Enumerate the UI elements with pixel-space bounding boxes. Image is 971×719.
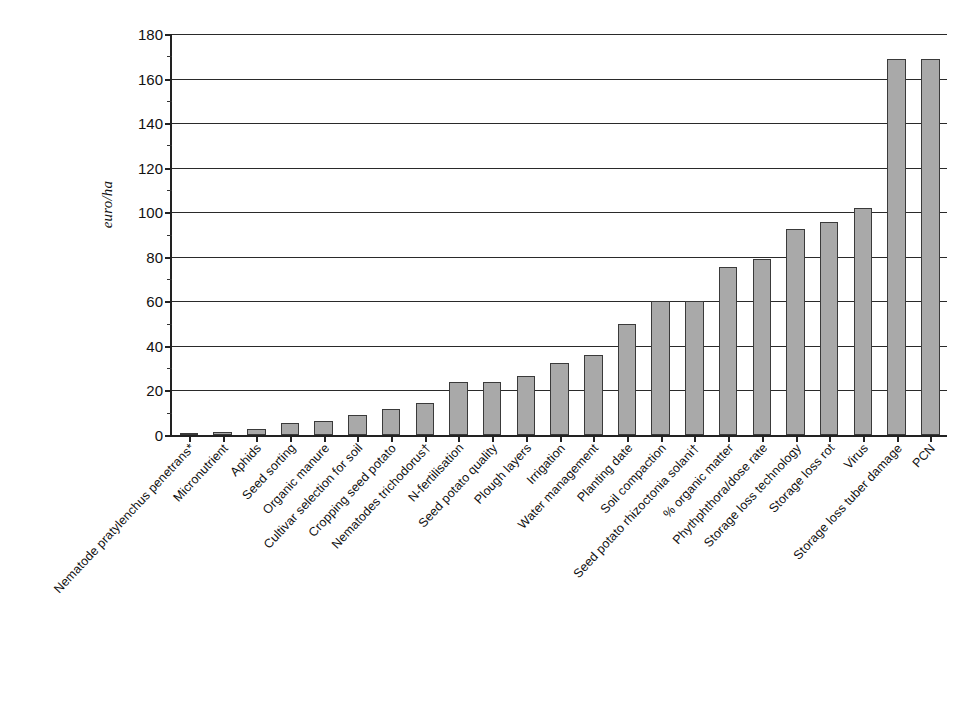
bar-series [172, 34, 947, 435]
bar-slot [678, 34, 712, 435]
bar-slot [913, 34, 947, 435]
bar-slot [644, 34, 678, 435]
bar-slot [206, 34, 240, 435]
x-label-slot: Storage loss rot [810, 441, 844, 681]
bar [753, 259, 772, 435]
bar-slot [172, 34, 206, 435]
bar-slot [273, 34, 307, 435]
y-tick-label: 180 [138, 26, 163, 43]
bar-slot [341, 34, 375, 435]
bar-slot [307, 34, 341, 435]
y-tick-label: 140 [138, 115, 163, 132]
bar [348, 415, 367, 435]
x-axis-label: PCN [910, 441, 938, 470]
y-tick-mark [165, 257, 172, 259]
bar [314, 421, 333, 435]
y-tick-label: 80 [146, 248, 163, 265]
y-tick-mark [165, 390, 172, 392]
bar-slot [711, 34, 745, 435]
y-tick-label: 20 [146, 382, 163, 399]
bar [416, 403, 435, 435]
y-axis-title: euro/ha [99, 160, 116, 250]
y-tick-label: 0 [155, 427, 163, 444]
x-axis-category-labels: Nematode pratylenchus penetrans*Micronut… [170, 441, 945, 681]
bar-slot [475, 34, 509, 435]
x-label-slot: PCN [911, 441, 945, 681]
y-tick-mark [165, 212, 172, 214]
bar [719, 267, 738, 435]
y-tick-mark [165, 301, 172, 303]
x-label-slot: Micronutrient [204, 441, 238, 681]
y-tick-mark [165, 123, 172, 125]
bar [820, 222, 839, 435]
y-tick-label: 60 [146, 293, 163, 310]
y-tick-mark [165, 34, 172, 36]
bar [584, 355, 603, 435]
y-tick-mark [165, 346, 172, 348]
plot-area: 020406080100120140160180 [170, 34, 947, 437]
bar-slot [374, 34, 408, 435]
y-tick-label: 40 [146, 337, 163, 354]
bar-slot [846, 34, 880, 435]
y-tick-mark [165, 168, 172, 170]
bar [483, 382, 502, 435]
bar [449, 382, 468, 435]
bar [382, 409, 401, 435]
bar [550, 363, 569, 435]
bar [618, 324, 637, 435]
bar [517, 376, 536, 435]
bar-slot [543, 34, 577, 435]
bar-slot [239, 34, 273, 435]
bar [281, 423, 300, 435]
bar [921, 59, 940, 435]
bar-slot [812, 34, 846, 435]
bar [887, 59, 906, 435]
y-tick-label: 160 [138, 70, 163, 87]
bar [786, 229, 805, 435]
bar-slot [880, 34, 914, 435]
x-label-slot: Storage loss tuber damage [878, 441, 912, 681]
bar [685, 301, 704, 435]
bar [651, 301, 670, 435]
bar [854, 208, 873, 435]
chart-figure: euro/ha 020406080100120140160180 Nematod… [0, 0, 971, 719]
y-tick-label: 120 [138, 159, 163, 176]
bar-slot [509, 34, 543, 435]
bar-slot [576, 34, 610, 435]
bar-slot [745, 34, 779, 435]
y-tick-mark [165, 79, 172, 81]
x-axis-label: Virus [841, 441, 871, 472]
bar-slot [442, 34, 476, 435]
x-axis-label: Nematode pratylenchus penetrans* [51, 441, 197, 596]
bar-slot [408, 34, 442, 435]
bar-slot [610, 34, 644, 435]
y-tick-mark [165, 435, 172, 437]
bar-slot [779, 34, 813, 435]
y-tick-label: 100 [138, 204, 163, 221]
